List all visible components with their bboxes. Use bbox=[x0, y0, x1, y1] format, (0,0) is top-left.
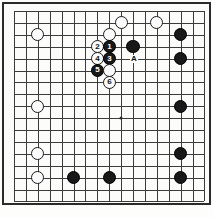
move-number: 3 bbox=[107, 55, 111, 63]
stone-black[interactable] bbox=[126, 40, 139, 53]
go-diagram-figure: 214356 A bbox=[0, 0, 213, 218]
stone-white-move-6[interactable]: 6 bbox=[103, 76, 116, 89]
stone-black[interactable] bbox=[103, 171, 116, 184]
grid-line-horizontal bbox=[14, 190, 204, 191]
figure-caption bbox=[0, 205, 213, 218]
move-number: 6 bbox=[107, 78, 111, 86]
move-number: 4 bbox=[95, 55, 99, 63]
grid-line-horizontal bbox=[14, 142, 204, 143]
grid-line-horizontal bbox=[14, 130, 204, 131]
hoshi-point bbox=[120, 117, 123, 120]
go-board[interactable]: 214356 A bbox=[2, 2, 211, 205]
grid-line-horizontal bbox=[14, 118, 204, 119]
move-number: 2 bbox=[95, 43, 99, 51]
grid-line-horizontal bbox=[14, 11, 204, 12]
grid-line-horizontal bbox=[14, 166, 204, 167]
move-number: 1 bbox=[107, 43, 111, 51]
stone-black-move-5[interactable]: 5 bbox=[91, 64, 104, 77]
move-number: 5 bbox=[95, 66, 99, 74]
grid-line-vertical bbox=[204, 11, 205, 201]
grid-line-horizontal bbox=[14, 94, 204, 95]
grid-line-horizontal bbox=[14, 23, 204, 24]
grid-line-horizontal bbox=[14, 201, 204, 202]
board-point-label-A: A bbox=[130, 55, 138, 63]
stone-black[interactable] bbox=[174, 100, 187, 113]
